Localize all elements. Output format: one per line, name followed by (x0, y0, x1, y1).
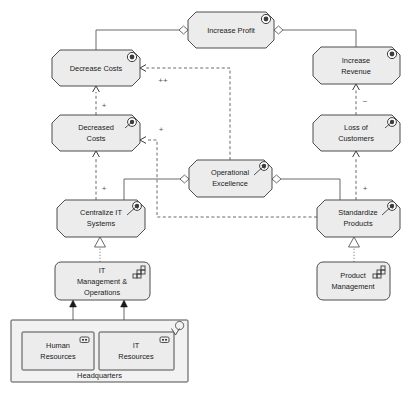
node-decreased-costs[interactable]: Decreased Costs (52, 115, 140, 151)
node-it-management-operations[interactable]: IT Management & Operations (55, 262, 150, 300)
node-human-resources[interactable]: Human Resources (22, 332, 94, 370)
assignment-arrowhead-hr (70, 300, 77, 307)
arrowhead-loss-to-revenue (353, 84, 360, 90)
archimate-canvas: ++ + + + − + Headquarters Increase (0, 0, 413, 395)
node-standardize-products[interactable]: Standardize Products (317, 200, 400, 237)
edge-label-plus-decrease-costs: + (102, 101, 107, 110)
arrowhead-standardize-to-loss (353, 151, 360, 157)
edge-label-plus-loss-customers: + (363, 184, 368, 193)
edge-aggregation-profit-increase-revenue[interactable] (283, 30, 356, 47)
edge-aggregation-opex-centralize[interactable] (124, 179, 181, 200)
goal-target-icon (261, 14, 270, 23)
archimate-diagram-root: ++ + + + − + Headquarters Increase (0, 0, 413, 395)
assignment-arrowhead-itres (121, 300, 128, 307)
realization-triangle-centralize (95, 237, 106, 247)
arrowhead-standardize-to-decreased-costs (140, 137, 146, 144)
edge-label-plus-centralize: + (102, 184, 107, 193)
realization-triangle-standardize (349, 237, 360, 247)
node-centralize-it-systems[interactable]: Centralize IT Systems (57, 200, 145, 237)
edge-aggregation-opex-standardize[interactable] (281, 179, 340, 200)
goal-target-icon (127, 52, 136, 61)
node-operational-excellence[interactable]: Operational Excellence (189, 160, 272, 197)
edge-aggregation-profit-decrease-costs[interactable] (96, 30, 180, 50)
arrowhead-decreased-to-decrease (93, 86, 100, 92)
edge-label-minus-revenue: − (363, 97, 368, 106)
arrowhead-opex-to-decrease-costs (140, 65, 146, 72)
node-it-resources[interactable]: IT Resources (99, 332, 174, 370)
node-loss-of-customers[interactable]: Loss of Customers (313, 115, 400, 151)
node-decrease-costs[interactable]: Decrease Costs (52, 50, 140, 86)
edge-label-plus-decreased-costs-right: + (159, 125, 164, 134)
node-increase-revenue[interactable]: Increase Revenue (313, 47, 400, 84)
arrowhead-centralize-to-decreased-costs (93, 151, 100, 157)
goal-target-icon (387, 49, 396, 58)
group-label-headquarters: Headquarters (77, 371, 122, 380)
node-increase-profit[interactable]: Increase Profit (188, 12, 274, 48)
aggregation-diamond-right (274, 26, 283, 34)
node-product-management[interactable]: Product Management (317, 262, 390, 300)
aggregation-diamond-opex-left (180, 175, 189, 183)
aggregation-diamond-left (179, 26, 188, 34)
aggregation-diamond-opex-right (272, 175, 281, 183)
edge-label-plus-plus: ++ (158, 76, 168, 85)
